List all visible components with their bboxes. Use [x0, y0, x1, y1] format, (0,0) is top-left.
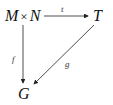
node-g: G — [18, 86, 30, 102]
label-f: f — [12, 55, 15, 64]
label-t: t — [61, 5, 64, 14]
node-m-times-n: M×N — [5, 8, 40, 24]
label-g: g — [65, 60, 70, 69]
node-t: T — [93, 8, 102, 24]
node-m: M — [5, 7, 18, 24]
arrow-g — [34, 25, 94, 84]
node-n: N — [30, 7, 41, 24]
times-operator: × — [20, 9, 27, 24]
